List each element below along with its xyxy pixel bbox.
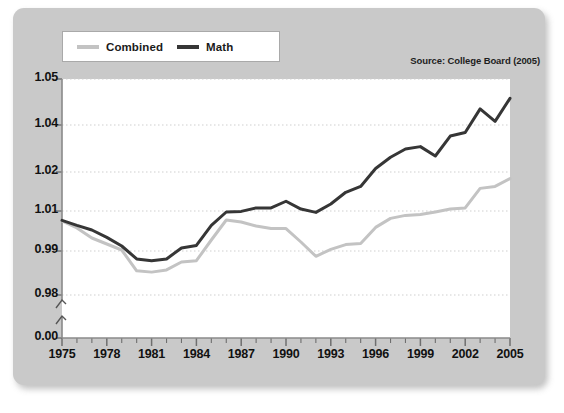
y-tick-label: 0.98: [14, 286, 58, 300]
y-tick-label: 1.02: [14, 163, 58, 177]
legend-label-combined: Combined: [106, 41, 163, 53]
source-note: Source: College Board (2005): [410, 55, 540, 66]
x-tick-label: 2005: [480, 347, 540, 361]
y-tick-label: 1.01: [14, 202, 58, 216]
legend-label-math: Math: [206, 41, 233, 53]
y-tick-label: 0.00: [14, 329, 58, 343]
chart-legend[interactable]: Combined Math: [62, 31, 280, 62]
math-swatch: [177, 45, 199, 49]
axis-lines: [56, 79, 510, 338]
combined-swatch: [77, 45, 99, 49]
x-axis-ticks: [62, 338, 510, 346]
y-tick-label: 0.99: [14, 242, 58, 256]
y-tick-label: 1.04: [14, 116, 58, 130]
legend-entry-combined[interactable]: Combined: [77, 41, 163, 53]
chart-figure: 1.051.041.021.010.990.980.00 19751978198…: [0, 0, 564, 413]
y-tick-label: 1.05: [14, 70, 58, 84]
legend-entry-math[interactable]: Math: [177, 41, 233, 53]
data-series: [62, 98, 510, 272]
